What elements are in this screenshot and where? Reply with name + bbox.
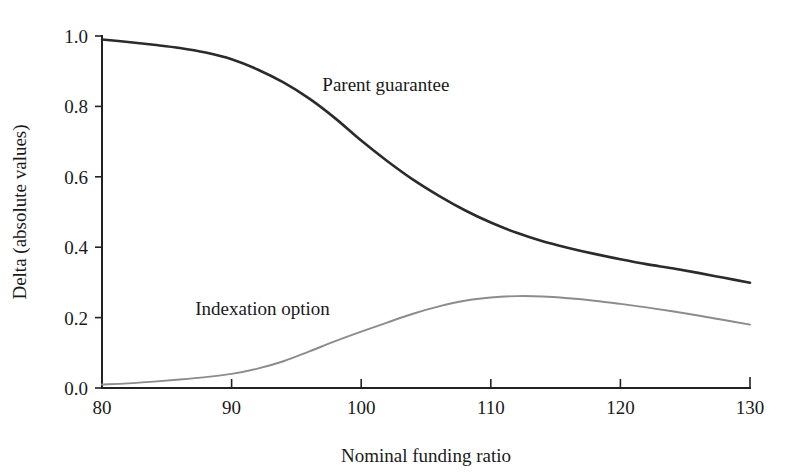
y-axis-ticks [95,36,102,388]
x-tick-label-90: 90 [222,397,241,418]
series-label-indexation-option: Indexation option [195,298,330,319]
y-tick-label-0.8: 0.8 [64,96,88,117]
line-chart-canvas: 0.00.20.40.60.81.0 8090100110120130 Pare… [0,0,792,475]
y-axis-title: Delta (absolute values) [9,124,31,299]
y-tick-label-0.2: 0.2 [64,308,88,329]
x-tick-label-80: 80 [93,397,112,418]
x-tick-label-120: 120 [606,397,635,418]
x-tick-label-130: 130 [736,397,765,418]
y-tick-label-0.4: 0.4 [64,237,88,258]
y-tick-label-0.6: 0.6 [64,167,88,188]
x-tick-label-100: 100 [347,397,376,418]
x-axis-tick-labels: 8090100110120130 [93,397,765,418]
y-tick-label-1.0: 1.0 [64,26,88,47]
series-inline-labels: Parent guaranteeIndexation option [195,74,449,320]
y-tick-label-0.0: 0.0 [64,378,88,399]
chart-figure: 0.00.20.40.60.81.0 8090100110120130 Pare… [0,0,792,475]
x-tick-label-110: 110 [477,397,505,418]
series-label-parent-guarantee: Parent guarantee [322,74,449,95]
x-axis-title: Nominal funding ratio [341,445,511,466]
y-axis-tick-labels: 0.00.20.40.60.81.0 [64,26,88,399]
